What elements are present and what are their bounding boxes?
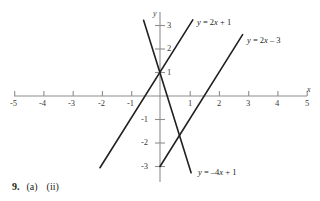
x-tick-label-4: 4 <box>275 99 279 108</box>
graph-figure: -5 -4 -3 -2 -1 1 2 3 4 5 3 2 1 -1 -2 -3 … <box>0 0 320 201</box>
figure-caption: 9.(a)(ii) <box>12 182 59 192</box>
caption-part: (a) <box>27 181 38 192</box>
y-tick-label-3: 3 <box>167 21 171 30</box>
y-tick-label-2: 2 <box>167 44 171 53</box>
line-label-y-2x-plus-1: y = 2x + 1 <box>197 18 231 27</box>
x-tick-label-5: 5 <box>305 99 309 108</box>
caption-question-number: 9. <box>12 181 20 192</box>
x-tick-label-neg4: -4 <box>39 99 46 108</box>
y-tick-label-neg3: -3 <box>141 162 148 171</box>
x-tick-label-neg1: -1 <box>127 99 134 108</box>
x-tick-label-neg2: -2 <box>98 99 105 108</box>
caption-subpart: (ii) <box>47 181 59 192</box>
x-axis-ticks <box>15 91 308 96</box>
line-label-y-2x-minus-3: y = 2x – 3 <box>247 36 281 45</box>
line-y-2x-minus-3 <box>160 35 243 167</box>
x-tick-label-3: 3 <box>246 99 250 108</box>
line-label-y-neg4x-plus-1: y = –4x + 1 <box>198 168 236 177</box>
y-tick-label-1: 1 <box>167 68 171 77</box>
y-tick-label-neg1: -1 <box>141 115 148 124</box>
x-tick-label-1: 1 <box>188 99 192 108</box>
y-axis-label: y <box>153 10 157 18</box>
x-tick-label-2: 2 <box>217 99 221 108</box>
x-axis-label: x <box>307 86 311 94</box>
x-tick-label-neg3: -3 <box>68 99 75 108</box>
x-tick-label-neg5: -5 <box>10 99 17 108</box>
coordinate-plot <box>0 0 320 201</box>
y-tick-label-neg2: -2 <box>141 138 148 147</box>
